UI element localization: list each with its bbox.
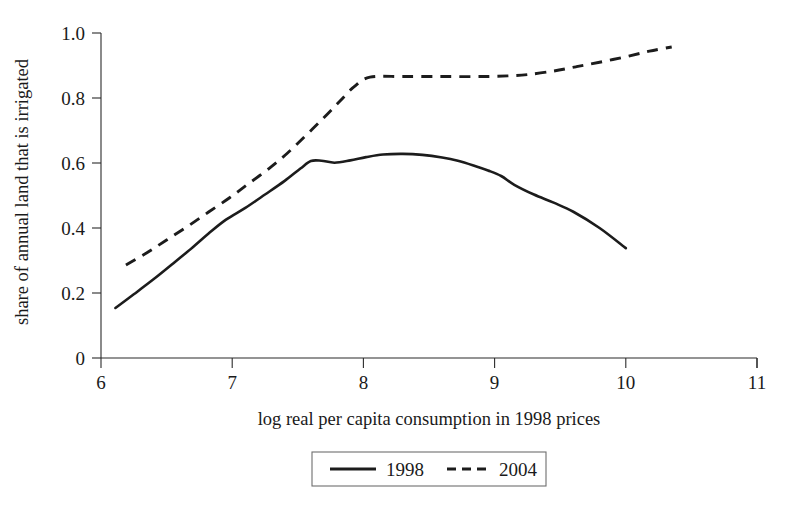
x-tick-label: 8 — [359, 372, 369, 393]
y-axis-title: share of annual land that is irrigated — [12, 58, 32, 325]
x-tick-label: 9 — [490, 372, 500, 393]
y-tick-label: 0 — [76, 348, 86, 369]
series-line-2004 — [126, 47, 672, 265]
line-chart-svg: 00.20.40.60.81.0 67891011 log real per c… — [0, 0, 792, 515]
x-tick-label: 11 — [748, 372, 766, 393]
x-tick-label: 6 — [96, 372, 106, 393]
x-tick-label: 7 — [227, 372, 237, 393]
y-tick-group: 00.20.40.60.81.0 — [61, 23, 101, 369]
axis-group — [101, 33, 757, 368]
legend: 1998 2004 — [312, 452, 546, 486]
series-line-1998 — [115, 154, 625, 308]
legend-label-2004: 2004 — [499, 459, 538, 480]
x-tick-group: 67891011 — [96, 358, 766, 393]
y-tick-label: 0.2 — [61, 283, 85, 304]
legend-label-1998: 1998 — [386, 459, 424, 480]
y-tick-label: 1.0 — [61, 23, 85, 44]
y-tick-label: 0.8 — [61, 88, 85, 109]
x-tick-label: 10 — [616, 372, 635, 393]
chart-figure: 00.20.40.60.81.0 67891011 log real per c… — [0, 0, 792, 515]
y-tick-label: 0.4 — [61, 218, 85, 239]
x-axis-title: log real per capita consumption in 1998 … — [258, 409, 601, 429]
y-tick-label: 0.6 — [61, 153, 85, 174]
